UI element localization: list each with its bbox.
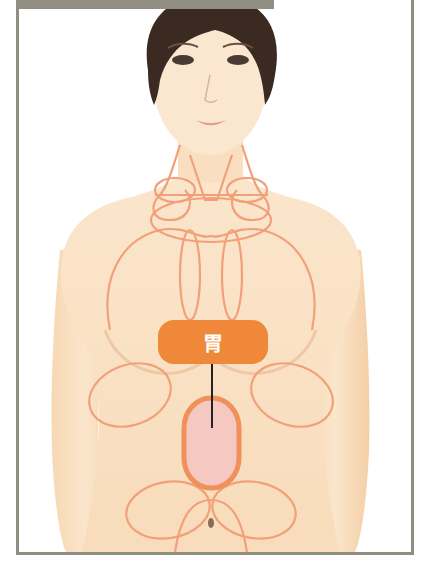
header-bar <box>16 0 274 9</box>
stomach-label: 胃 <box>158 320 268 364</box>
torso-illustration <box>0 0 421 580</box>
stomach-label-text: 胃 <box>203 328 223 357</box>
